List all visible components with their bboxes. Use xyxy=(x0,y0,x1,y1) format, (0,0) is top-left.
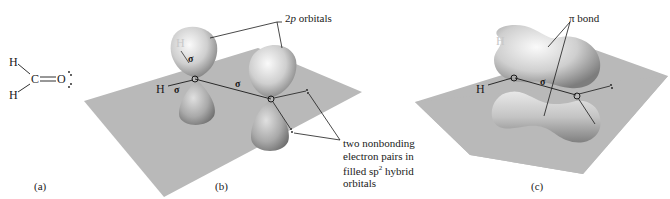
panel-label-c: (c) xyxy=(531,180,543,192)
atom-h-ghost-b: H xyxy=(176,37,185,49)
lewis-atom-h-top: H xyxy=(9,56,18,68)
label-pi-bond: π bond xyxy=(569,12,599,24)
molecular-plane-b xyxy=(84,48,362,197)
leader-nonbonding-lower xyxy=(294,133,340,140)
atom-h-left-b: H xyxy=(156,83,165,95)
sigma-label-co-b: σ xyxy=(235,78,240,89)
label-2p-orbitals: 2p orbitals xyxy=(285,12,332,24)
sigma-label-ch-b: σ xyxy=(174,84,179,95)
atom-h-ghost-c: H xyxy=(496,35,505,47)
atom-h-left-c: H xyxy=(476,83,485,95)
sigma-label-ghost-b: σ xyxy=(188,53,193,64)
nonbonding-electron-note: two nonbonding electron pairs in filled … xyxy=(343,137,415,190)
panel-label-b: (b) xyxy=(215,180,228,192)
leader-2p-orbitals xyxy=(210,22,282,48)
lewis-atom-o: O xyxy=(57,73,66,85)
sigma-label-co-c: σ xyxy=(540,76,545,87)
panel-label-a: (a) xyxy=(34,180,46,192)
lewis-bond-c-h-top xyxy=(18,64,30,74)
lewis-bond-c-h-bottom xyxy=(18,84,30,92)
lewis-atom-h-bottom: H xyxy=(9,89,18,101)
lewis-atom-c: C xyxy=(31,73,39,85)
orbital-diagram-canvas xyxy=(0,0,670,199)
